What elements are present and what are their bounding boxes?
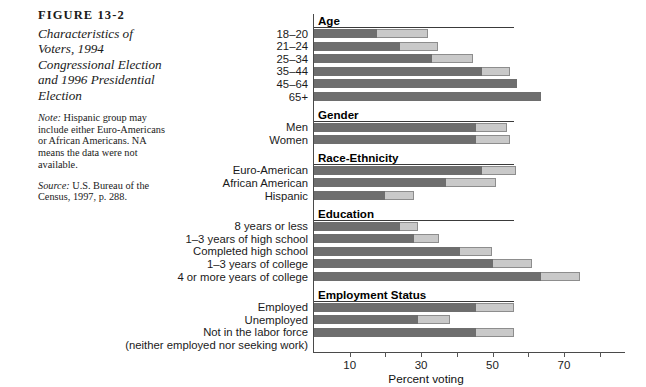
bar-segment-presidential [476, 135, 510, 144]
x-tick [421, 352, 422, 357]
bar-segment-congressional [314, 303, 476, 312]
bar-row-label: 65+ [48, 92, 308, 103]
bar-segment-presidential [493, 259, 532, 268]
x-tick-label: 50 [486, 359, 499, 371]
bar-row-label: African American [48, 178, 308, 189]
bar-row [314, 79, 517, 88]
bar-segment-congressional [314, 222, 400, 231]
bar-segment-congressional [314, 166, 482, 175]
bar-segment-presidential [460, 247, 492, 256]
section-header: Age [314, 14, 514, 28]
bar-row [314, 234, 439, 243]
bar-row-label: Hispanic [48, 191, 308, 202]
bar-segment-presidential [541, 272, 580, 281]
bar-row-label: 18–20 [48, 29, 308, 40]
bar-segment-congressional [314, 259, 493, 268]
x-tick [350, 352, 351, 357]
bar-row-label: Completed high school [48, 246, 308, 257]
bar-segment-presidential [385, 191, 414, 200]
section-header-label: Education [318, 207, 374, 220]
x-axis-title: Percent voting [388, 372, 463, 386]
bar-segment-congressional [314, 234, 414, 243]
bar-row [314, 272, 580, 281]
x-tick [493, 352, 494, 357]
bar-row-label: 35–44 [48, 66, 308, 77]
bar-row [314, 54, 473, 63]
bar-row [314, 123, 507, 132]
bar-row-label: 45–64 [48, 79, 308, 90]
bar-row [314, 315, 450, 324]
x-tick-label: 30 [415, 359, 428, 371]
bar-segment-congressional [314, 29, 377, 38]
bar-row-label: 1–3 years of college [48, 259, 308, 270]
bar-segment-congressional [314, 54, 432, 63]
bar-segment-presidential [377, 29, 428, 38]
section-header-label: Age [318, 14, 340, 27]
bar-segment-congressional [314, 178, 446, 187]
bar-segment-congressional [314, 328, 476, 337]
x-tick [600, 352, 601, 357]
x-tick-label: 70 [557, 359, 570, 371]
section-header: Employment Status [314, 288, 514, 302]
bar-row [314, 42, 438, 51]
bar-segment-presidential [400, 222, 418, 231]
section-header-label: Gender [318, 108, 359, 121]
bar-segment-congressional [314, 247, 460, 256]
bar-segment-presidential [476, 123, 506, 132]
bar-row-label: (neither employed nor seeking work) [48, 340, 308, 351]
section-header: Gender [314, 108, 514, 122]
bar-row [314, 328, 514, 337]
bar-row-label: 21–24 [48, 41, 308, 52]
bar-segment-presidential [476, 328, 513, 337]
bar-segment-congressional [314, 79, 517, 88]
bar-segment-presidential [400, 42, 438, 51]
bar-segment-presidential [482, 166, 516, 175]
bar-row-label: 8 years or less [48, 221, 308, 232]
bar-row-label: Unemployed [48, 315, 308, 326]
bar-row [314, 67, 510, 76]
bar-segment-presidential [432, 54, 473, 63]
bar-segment-congressional [314, 272, 541, 281]
bar-row-label: 25–34 [48, 54, 308, 65]
row-labels-layer: 18–2021–2425–3435–4445–6465+MenWomenEuro… [45, 0, 308, 387]
bar-segment-congressional [314, 92, 541, 101]
bar-row [314, 259, 532, 268]
section-header: Race-Ethnicity [314, 151, 514, 165]
bar-row-label: Men [48, 122, 308, 133]
bar-segment-congressional [314, 135, 476, 144]
bar-segment-congressional [314, 42, 400, 51]
bar-row [314, 29, 428, 38]
section-header-label: Race-Ethnicity [318, 151, 399, 164]
bar-row-label: Employed [48, 302, 308, 313]
bar-segment-congressional [314, 123, 476, 132]
section-header-label: Employment Status [318, 288, 426, 301]
bar-row [314, 92, 541, 101]
bar-segment-congressional [314, 67, 482, 76]
bar-row-label: 4 or more years of college [48, 272, 308, 283]
bar-segment-congressional [314, 315, 418, 324]
bar-segment-presidential [414, 234, 439, 243]
section-header: Education [314, 207, 514, 221]
bar-row-label: Not in the labor force [48, 327, 308, 338]
bar-row [314, 247, 492, 256]
bar-row [314, 166, 516, 175]
bar-row-label: 1–3 years of high school [48, 234, 308, 245]
x-tick [528, 352, 529, 357]
bar-segment-presidential [418, 315, 450, 324]
bar-segment-congressional [314, 191, 385, 200]
bar-row [314, 303, 514, 312]
bar-chart: 10305070 AgeGenderRace-EthnicityEducatio… [0, 0, 646, 387]
bar-row [314, 135, 510, 144]
x-tick [457, 352, 458, 357]
x-tick [564, 352, 565, 357]
bar-row [314, 191, 414, 200]
x-tick-label: 10 [343, 359, 356, 371]
bar-segment-presidential [446, 178, 496, 187]
bar-segment-presidential [482, 67, 511, 76]
plot-x-axis [313, 352, 625, 353]
bar-row [314, 222, 418, 231]
bar-row-label: Euro-American [48, 165, 308, 176]
bar-row-label: Women [48, 135, 308, 146]
bar-segment-presidential [476, 303, 513, 312]
bar-row [314, 178, 496, 187]
